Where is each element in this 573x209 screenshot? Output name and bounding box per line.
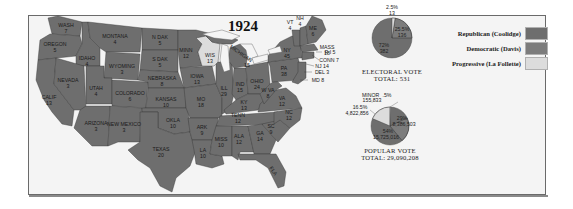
svg-text:10: 10 [218,142,224,148]
svg-text:8: 8 [161,81,164,87]
svg-text:9: 9 [270,129,273,135]
popular-vote-total: TOTAL: 29,090,208 [348,154,432,161]
svg-text:3: 3 [67,83,70,89]
svg-text:4: 4 [114,39,117,45]
progressive-swatch [525,57,548,70]
svg-text:13: 13 [46,100,52,106]
electoral-vote-title: ELECTORAL VOTE [352,68,432,75]
svg-text:12: 12 [286,115,292,121]
svg-text:5: 5 [159,40,162,46]
electoral-vote-pie: 2.5% 13 25.5% 136 72% 382 [372,4,412,58]
svg-text:20: 20 [158,152,164,158]
svg-text:155,833: 155,833 [363,97,382,103]
legend-item-republican: Republican (Coolidge) [452,26,548,41]
svg-text:382: 382 [380,48,389,54]
svg-text:15: 15 [244,62,250,68]
svg-text:18: 18 [198,102,204,108]
svg-text:10: 10 [170,123,176,129]
svg-text:8,386,503: 8,386,503 [392,121,415,127]
popular-vote-pie: MINOR .5% 155,833 16.5% 4,822,856 29% 8,… [345,92,415,145]
svg-text:12: 12 [279,101,285,107]
svg-text:8: 8 [267,93,270,99]
svg-text:4: 4 [95,91,98,97]
svg-text:4: 4 [299,21,302,27]
svg-text:4,822,856: 4,822,856 [345,110,368,116]
popular-vote-title: POPULAR VOTE [348,147,432,154]
callout-labels: R I 5 CONN 7 NJ 14 DEL 3 MD 8 [312,49,339,83]
legend-item-democratic: Democratic (Davis) [452,41,548,56]
electoral-vote-total: TOTAL: 531 [352,75,432,82]
svg-text:3: 3 [121,69,124,75]
svg-text:13: 13 [389,10,395,16]
map-title: 1924 [228,18,258,35]
state-arizona [74,106,110,146]
republican-swatch [525,27,548,40]
electoral-vote-caption: ELECTORAL VOTE TOTAL: 531 [352,68,432,83]
callout-del: DEL 3 [315,69,329,75]
callout-ri: R I 5 [325,49,336,55]
svg-text:45: 45 [284,53,290,59]
svg-text:10: 10 [200,153,206,159]
state-fla [238,154,286,188]
svg-text:6: 6 [312,31,315,37]
svg-text:15,725,016: 15,725,016 [373,134,399,140]
svg-text:10: 10 [163,102,169,108]
state-oregon [38,34,82,60]
svg-text:4: 4 [289,25,292,31]
svg-text:15: 15 [237,87,243,93]
svg-text:38: 38 [281,71,287,77]
svg-text:9: 9 [201,130,204,136]
svg-text:5: 5 [159,62,162,68]
svg-text:13: 13 [194,79,200,85]
callout-md: MD 8 [312,77,325,83]
svg-text:29: 29 [221,91,227,97]
svg-text:24: 24 [254,84,260,90]
state-conn-ri [302,52,314,60]
svg-text:12: 12 [183,53,189,59]
svg-text:12: 12 [235,118,241,124]
svg-text:6: 6 [129,96,132,102]
svg-text:4: 4 [86,61,89,67]
svg-text:14: 14 [257,136,263,142]
svg-text:3: 3 [123,127,126,133]
svg-text:7: 7 [65,28,68,34]
svg-text:3: 3 [95,126,98,132]
legend: Republican (Coolidge) Democratic (Davis)… [452,26,548,71]
democratic-swatch [525,42,548,55]
svg-text:12: 12 [236,139,242,145]
svg-text:136: 136 [398,32,407,38]
svg-text:.5%: .5% [383,92,392,98]
legend-item-progressive: Progressive (La Follette) [452,56,548,71]
svg-text:5: 5 [54,47,57,53]
popular-vote-caption: POPULAR VOTE TOTAL: 29,090,208 [348,147,432,162]
svg-text:13: 13 [207,58,213,64]
svg-text:13: 13 [241,105,247,111]
